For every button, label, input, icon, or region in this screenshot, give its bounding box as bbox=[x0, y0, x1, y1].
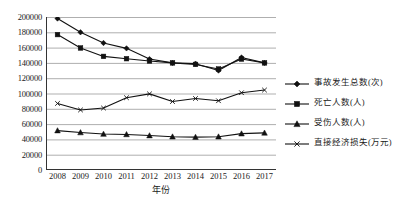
series-line bbox=[58, 35, 265, 69]
legend-label: 死亡人数(人) bbox=[314, 98, 365, 107]
y-tick-label: 140000 bbox=[18, 59, 42, 68]
marker-square bbox=[124, 56, 129, 61]
y-tick-label: 200000 bbox=[18, 13, 42, 22]
y-tick-label: 40000 bbox=[22, 135, 42, 144]
legend-key-svg bbox=[284, 78, 310, 90]
x-tick-label: 2010 bbox=[95, 172, 112, 181]
legend-item[interactable]: 死亡人数(人) bbox=[284, 92, 400, 112]
y-tick-label: 20000 bbox=[22, 150, 42, 159]
x-tick-label: 2017 bbox=[256, 172, 273, 181]
marker-square bbox=[239, 57, 244, 62]
marker-square bbox=[55, 32, 60, 37]
series-line bbox=[58, 90, 265, 110]
x-axis-tick-labels: 2008200920102011201220132014201520162017 bbox=[46, 172, 276, 184]
x-axis-title: 年份 bbox=[46, 186, 276, 195]
legend-item[interactable]: 事故发生总数(次) bbox=[284, 72, 400, 92]
x-tick-label: 2011 bbox=[118, 172, 135, 181]
series-1 bbox=[55, 32, 267, 71]
series-0 bbox=[55, 17, 267, 73]
x-tick-label: 2014 bbox=[187, 172, 204, 181]
legend-marker-triangle-icon bbox=[284, 116, 310, 128]
marker-square bbox=[78, 46, 83, 51]
legend-label: 直接经济损失(万元) bbox=[314, 138, 392, 147]
marker-diamond bbox=[294, 81, 300, 87]
legend-label: 事故发生总数(次) bbox=[314, 78, 383, 87]
legend-marker-diamond-icon bbox=[284, 76, 310, 88]
chart-figure: 0200004000060000800001000001200001400001… bbox=[0, 0, 400, 204]
series-2 bbox=[55, 128, 268, 140]
x-tick-label: 2016 bbox=[233, 172, 250, 181]
y-tick-label: 80000 bbox=[22, 105, 42, 114]
y-tick-label: 0 bbox=[38, 166, 42, 175]
marker-square bbox=[101, 54, 106, 59]
marker-diamond bbox=[101, 40, 106, 45]
x-tick-label: 2008 bbox=[49, 172, 66, 181]
x-tick-label: 2012 bbox=[141, 172, 158, 181]
series-line bbox=[58, 131, 265, 138]
marker-square bbox=[294, 101, 299, 106]
x-tick-label: 2013 bbox=[164, 172, 181, 181]
legend-key-svg bbox=[284, 98, 310, 110]
series-3 bbox=[55, 88, 267, 112]
legend-key-svg bbox=[284, 138, 310, 150]
y-axis-tick-labels: 0200004000060000800001000001200001400001… bbox=[0, 17, 42, 170]
legend-item[interactable]: 直接经济损失(万元) bbox=[284, 132, 400, 152]
legend-item[interactable]: 受伤人数(人) bbox=[284, 112, 400, 132]
marker-square bbox=[147, 59, 152, 64]
marker-diamond bbox=[124, 46, 129, 51]
y-tick-label: 120000 bbox=[18, 74, 42, 83]
y-tick-label: 60000 bbox=[22, 120, 42, 129]
plot-area bbox=[46, 17, 276, 170]
legend-marker-square-icon bbox=[284, 96, 310, 108]
chart-legend: 事故发生总数(次)死亡人数(人)受伤人数(人)直接经济损失(万元) bbox=[284, 72, 400, 152]
marker-square bbox=[262, 61, 267, 66]
y-tick-label: 180000 bbox=[18, 28, 42, 37]
plot-svg bbox=[46, 17, 276, 170]
x-tick-label: 2015 bbox=[210, 172, 227, 181]
legend-marker-cross-icon bbox=[284, 136, 310, 148]
marker-square bbox=[216, 67, 221, 72]
x-tick-label: 2009 bbox=[72, 172, 89, 181]
marker-square bbox=[193, 62, 198, 67]
legend-key-svg bbox=[284, 118, 310, 130]
legend-label: 受伤人数(人) bbox=[314, 118, 365, 127]
y-tick-label: 160000 bbox=[18, 43, 42, 52]
marker-diamond bbox=[78, 30, 83, 35]
marker-square bbox=[170, 61, 175, 66]
marker-diamond bbox=[55, 17, 60, 21]
y-tick-label: 100000 bbox=[18, 89, 42, 98]
